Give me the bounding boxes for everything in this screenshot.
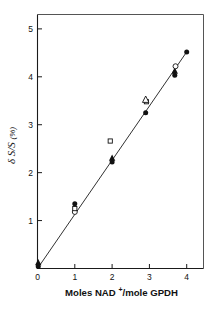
y-tick-label: 4: [28, 72, 33, 82]
x-axis-label: Moles NAD +/mole GPDH: [65, 286, 178, 298]
x-tick-label: 1: [72, 272, 77, 282]
data-point: [73, 206, 77, 210]
figure-container: 01234 12345 Moles NAD +/mole GPDH δ S/S …: [0, 0, 218, 310]
y-tick-label: 1: [28, 216, 33, 226]
y-tick-label: 2: [28, 168, 33, 178]
x-tick-label: 0: [35, 272, 40, 282]
data-point: [143, 110, 148, 115]
y-tick-label: 3: [28, 120, 33, 130]
plot-background: [0, 0, 218, 310]
x-tick-label: 3: [147, 272, 152, 282]
data-point: [108, 139, 112, 143]
data-point: [184, 49, 189, 54]
x-tick-label: 4: [184, 272, 189, 282]
data-point: [173, 64, 178, 69]
y-tick-label: 5: [28, 24, 33, 34]
x-tick-label: 2: [110, 272, 115, 282]
data-point: [72, 201, 77, 206]
scatter-plot: 01234 12345 Moles NAD +/mole GPDH δ S/S …: [0, 0, 218, 310]
x-axis-caption: Moles NAD +/mole GPDH: [65, 286, 178, 298]
